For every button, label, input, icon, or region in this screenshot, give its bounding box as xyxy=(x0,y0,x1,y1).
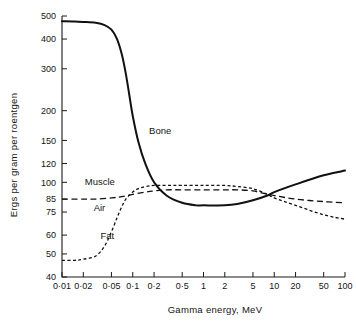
curve-label-bone: Bone xyxy=(149,125,171,136)
series-line-fat xyxy=(62,185,345,260)
curve-label-fat: Fat xyxy=(100,230,114,241)
y-tick-label: 85 xyxy=(46,194,56,204)
y-axis-ticks: 5004003002001501201008575605040 xyxy=(41,11,67,282)
y-tick-label: 120 xyxy=(41,159,56,169)
x-tick-label: 0·01 xyxy=(53,281,71,291)
x-tick-label: 0·02 xyxy=(74,281,92,291)
y-axis-title: Ergs per gram per roentgen xyxy=(8,93,19,218)
y-tick-label: 50 xyxy=(46,249,56,259)
x-axis-title: Gamma energy, MeV xyxy=(168,304,263,315)
y-tick-label: 300 xyxy=(41,64,56,74)
x-tick-label: 10 xyxy=(269,281,279,291)
x-tick-label: 5 xyxy=(250,281,255,291)
data-curves xyxy=(62,21,345,260)
x-tick-label: 100 xyxy=(337,281,352,291)
x-tick-label: 0·5 xyxy=(176,281,189,291)
x-tick-label: 0·05 xyxy=(102,281,120,291)
x-tick-label: 0·2 xyxy=(148,281,161,291)
curve-annotations: BoneMuscleAirFat xyxy=(85,125,171,241)
radiation-dose-chart: Ergs per gram per roentgen Gamma energy,… xyxy=(0,0,356,325)
y-tick-label: 75 xyxy=(46,207,56,217)
x-tick-label: 20 xyxy=(291,281,301,291)
y-tick-label: 100 xyxy=(41,178,56,188)
x-tick-label: 2 xyxy=(222,281,227,291)
y-tick-label: 150 xyxy=(41,136,56,146)
x-tick-label: 50 xyxy=(319,281,329,291)
x-tick-label: 1 xyxy=(201,281,206,291)
x-axis-ticks: 0·010·020·050·10·20·5125102050100 xyxy=(53,272,353,291)
curve-label-muscle: Muscle xyxy=(85,176,115,187)
chart-figure: Ergs per gram per roentgen Gamma energy,… xyxy=(0,0,356,325)
y-tick-label: 200 xyxy=(41,106,56,116)
x-tick-label: 0·1 xyxy=(126,281,139,291)
curve-label-air: Air xyxy=(94,202,106,213)
y-axis-title-group: Ergs per gram per roentgen xyxy=(8,93,19,218)
y-tick-label: 500 xyxy=(41,11,56,21)
x-axis-title-group: Gamma energy, MeV xyxy=(168,304,263,315)
y-tick-label: 400 xyxy=(41,34,56,44)
y-tick-label: 60 xyxy=(46,230,56,240)
